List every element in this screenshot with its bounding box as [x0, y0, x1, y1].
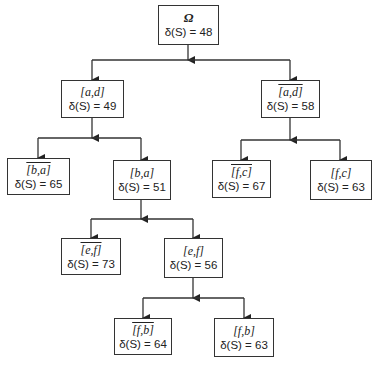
node-ad: [a,d] δ(S) = 49 — [61, 80, 124, 118]
node-ad-complement: [a,d] δ(S) = 58 — [261, 80, 320, 118]
node-ef-complement: [e,f] δ(S) = 73 — [61, 238, 121, 275]
node-ba-complement: [b,a] δ(S) = 65 — [7, 158, 70, 195]
node-value: δ(S) = 65 — [15, 177, 63, 191]
node-label: [f,c] — [231, 165, 252, 179]
node-fc-complement: [f,c] δ(S) = 67 — [212, 160, 271, 198]
node-label: [e,f] — [183, 244, 204, 258]
node-ba: [b,a] δ(S) = 51 — [113, 160, 171, 200]
node-fc: [f,c] δ(S) = 63 — [310, 160, 372, 200]
node-label: Ω — [184, 11, 194, 25]
node-value: δ(S) = 58 — [267, 99, 315, 113]
node-value: δ(S) = 67 — [218, 179, 266, 193]
node-value: δ(S) = 63 — [317, 180, 365, 194]
node-label: [a,d] — [80, 85, 104, 99]
node-label: [e,f] — [81, 243, 102, 257]
node-label: [b,a] — [130, 166, 154, 180]
node-label: [f,b] — [233, 324, 255, 338]
node-ef: [e,f] δ(S) = 56 — [164, 238, 223, 278]
node-value: δ(S) = 48 — [165, 25, 213, 39]
node-label: [b,a] — [26, 163, 50, 177]
node-fb-complement: [f,b] δ(S) = 64 — [114, 318, 172, 355]
node-label: [f,b] — [132, 323, 154, 337]
node-value: δ(S) = 63 — [220, 338, 268, 352]
node-value: δ(S) = 49 — [69, 99, 117, 113]
node-value: δ(S) = 73 — [67, 257, 115, 271]
node-label: [f,c] — [331, 166, 352, 180]
node-label: [a,d] — [278, 85, 302, 99]
node-value: δ(S) = 51 — [118, 180, 166, 194]
node-value: δ(S) = 64 — [119, 337, 167, 351]
node-fb: [f,b] δ(S) = 63 — [214, 318, 274, 357]
node-value: δ(S) = 56 — [170, 258, 218, 272]
node-root: Ω δ(S) = 48 — [158, 5, 219, 45]
